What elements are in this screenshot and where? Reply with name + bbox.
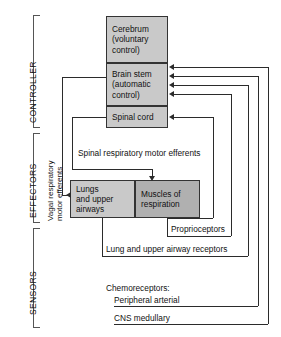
box-lungs: Lungs and upper airways bbox=[70, 180, 135, 218]
line-cns-medullary-base bbox=[114, 324, 268, 325]
line-peripheral-arterial-rail bbox=[258, 76, 259, 306]
arrow-into-lungs bbox=[66, 192, 71, 198]
sensor-label-proprioceptors: Proprioceptors bbox=[171, 224, 225, 234]
arrow-into-muscles bbox=[149, 176, 155, 181]
box-brain-stem: Brain stem (automatic control) bbox=[106, 63, 168, 106]
line-vagal-left bbox=[62, 77, 63, 195]
box-brain-stem-line1: Brain stem bbox=[112, 69, 152, 79]
arrow-proprioceptors-into-brainstem bbox=[169, 91, 174, 97]
box-muscles-line2: respiration bbox=[141, 199, 181, 209]
diagram-canvas: CONTROLLER EFFECTORS SENSORS Vagal respi… bbox=[0, 0, 281, 337]
box-brain-stem-line3: control) bbox=[112, 90, 152, 100]
line-vagal-top bbox=[62, 77, 106, 78]
box-brain-stem-line2: (automatic bbox=[112, 79, 152, 89]
bracket-label-controller: CONTROLLER bbox=[28, 61, 38, 123]
line-spinalcord-return-rail bbox=[213, 117, 214, 218]
line-spinal-efferent-left bbox=[72, 117, 73, 169]
vagal-efferents-label-line2: motor efferents bbox=[55, 167, 65, 221]
bracket-label-sensors: SENSORS bbox=[28, 271, 38, 315]
box-muscles-line1: Muscles of bbox=[141, 189, 181, 199]
box-lungs-line3: airways bbox=[76, 204, 113, 214]
box-cerebrum-line1: Cerebrum bbox=[112, 24, 149, 34]
line-proprioceptors-base bbox=[167, 236, 231, 237]
line-peripheral-arterial-to-brainstem bbox=[174, 76, 258, 77]
sensor-label-chemoreceptors: Chemoreceptors: bbox=[106, 283, 170, 293]
line-cns-medullary-to-brainstem bbox=[174, 67, 268, 68]
sensor-label-peripheral-arterial: Peripheral arterial bbox=[114, 295, 179, 305]
box-lungs-line1: Lungs bbox=[76, 184, 113, 194]
box-cerebrum-line3: control) bbox=[112, 45, 149, 55]
arrow-peripheral-arterial-into-brainstem bbox=[169, 73, 174, 79]
line-spinalcord-return-top bbox=[174, 117, 213, 118]
arrow-into-spinal-cord bbox=[169, 114, 174, 120]
arrow-cns-medullary-into-brainstem bbox=[169, 64, 174, 70]
line-spinalcord-return-bottom bbox=[167, 218, 213, 219]
line-spinal-efferent-top bbox=[72, 117, 106, 118]
box-muscles-of-respiration: Muscles of respiration bbox=[135, 180, 200, 218]
sensor-label-lung-receptors: Lung and upper airway receptors bbox=[106, 244, 227, 254]
bracket-label-effectors: EFFECTORS bbox=[28, 163, 38, 218]
box-spinal-cord: Spinal cord bbox=[106, 106, 168, 128]
line-proprioceptors-to-brainstem bbox=[174, 94, 231, 95]
box-cerebrum-line2: (voluntary bbox=[112, 34, 149, 44]
line-lung-receptors-base bbox=[102, 256, 248, 257]
line-peripheral-arterial-base bbox=[114, 306, 258, 307]
spinal-efferents-label: Spinal respiratory motor efferents bbox=[78, 148, 201, 158]
line-proprioceptors-rail bbox=[231, 94, 232, 236]
line-proprioceptors-drop bbox=[167, 218, 168, 236]
box-lungs-line2: and upper bbox=[76, 194, 113, 204]
sensor-label-cns-medullary: CNS medullary bbox=[114, 313, 170, 323]
box-cerebrum: Cerebrum (voluntary control) bbox=[106, 16, 168, 63]
line-lung-receptors-rail bbox=[248, 85, 249, 256]
line-lung-receptors-to-brainstem bbox=[174, 85, 248, 86]
line-cns-medullary-rail bbox=[268, 67, 269, 324]
arrow-lung-receptors-into-brainstem bbox=[169, 82, 174, 88]
line-spinal-efferent-bottom bbox=[72, 169, 153, 170]
line-lung-receptors-drop bbox=[102, 218, 103, 256]
box-spinal-cord-label: Spinal cord bbox=[107, 112, 154, 122]
